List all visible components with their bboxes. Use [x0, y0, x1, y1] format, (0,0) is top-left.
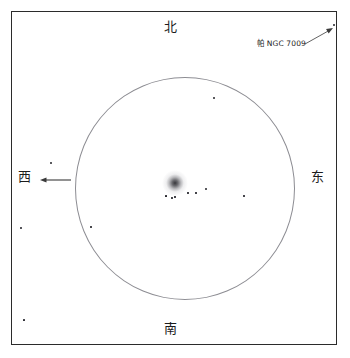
star-marker	[171, 197, 173, 199]
star-marker	[187, 192, 188, 193]
star-chart: 北 南 西 东 帕 NGC 7009	[0, 0, 350, 358]
cardinal-label-north: 北	[164, 20, 177, 33]
star-marker	[174, 196, 175, 197]
star-marker	[195, 192, 196, 193]
star-marker	[243, 195, 245, 197]
deep-sky-object	[162, 170, 188, 196]
cardinal-label-west: 西	[18, 170, 31, 183]
star-marker	[90, 226, 92, 228]
cardinal-label-east: 东	[311, 170, 324, 183]
cardinal-label-south: 南	[164, 322, 177, 335]
object-annotation-label: 帕 NGC 7009	[257, 37, 306, 48]
star-marker	[165, 195, 166, 196]
star-marker	[23, 319, 25, 321]
star-marker	[20, 227, 22, 229]
star-marker	[333, 24, 335, 26]
